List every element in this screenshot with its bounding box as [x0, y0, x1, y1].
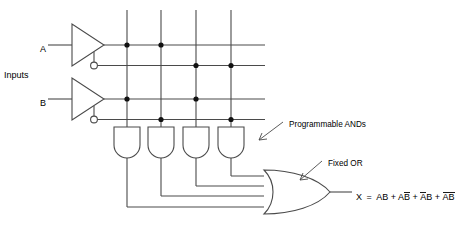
buffer-a [72, 24, 265, 69]
equation-output-name: X [356, 192, 362, 202]
buffer-b [72, 78, 265, 123]
output-equation: X = AB + AB + AB + AB [356, 186, 455, 204]
equation-term: AB [443, 192, 455, 202]
input-a-label: A [40, 38, 46, 56]
equation-operator: + [410, 192, 420, 202]
literal-complemented: B [449, 192, 455, 202]
pld-diagram-figure: A B Inputs Programmable ANDs Fixed OR X … [0, 0, 464, 226]
equation-terms: AB + AB + AB + AB [376, 192, 454, 202]
equation-term: AB [398, 192, 410, 202]
connection-dot [158, 42, 163, 47]
inverter-bubble-a [91, 62, 98, 69]
equation-operator: + [388, 192, 398, 202]
inputs-group-label: Inputs [4, 64, 29, 82]
connection-dot [193, 96, 198, 101]
connection-dot [193, 63, 198, 68]
fixed-or-leader [300, 161, 322, 180]
fixed-or-gate [264, 170, 352, 214]
fixed-or-label: Fixed OR [328, 152, 363, 170]
equation-equals: = [366, 192, 371, 202]
connection-dot [124, 96, 129, 101]
connection-dot [228, 63, 233, 68]
input-b-label: B [40, 92, 46, 110]
programmable-ands-label: Programmable ANDs [289, 113, 366, 131]
programmable-ands-leader [259, 122, 283, 140]
inverter-bubble-b [91, 116, 98, 123]
connection-dot [158, 117, 163, 122]
connection-dot [228, 117, 233, 122]
equation-operator: + [432, 192, 442, 202]
equation-term: AB [420, 192, 432, 202]
equation-term: AB [376, 192, 388, 202]
and-gate-3 [218, 127, 264, 176]
connection-dot [124, 42, 129, 47]
